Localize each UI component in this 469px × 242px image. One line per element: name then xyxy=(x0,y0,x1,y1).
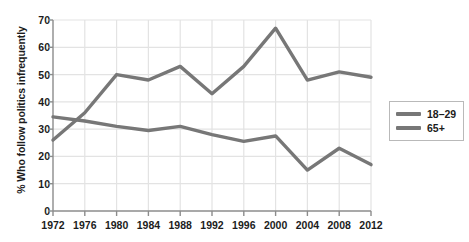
legend-label-18-29: 18–29 xyxy=(427,108,456,120)
legend-swatch-18-29 xyxy=(396,112,421,116)
legend-label-65-plus: 65+ xyxy=(427,122,445,134)
legend-item-18-29: 18–29 xyxy=(396,107,456,121)
legend-swatch-65-plus xyxy=(396,126,421,130)
x-tick-label: 2012 xyxy=(350,219,392,231)
legend-item-65-plus: 65+ xyxy=(396,121,456,135)
legend: 18–29 65+ xyxy=(389,101,464,141)
x-axis-tick-labels: 1972197619801984198819921996200020042008… xyxy=(0,219,469,237)
x-axis-ticks xyxy=(53,211,371,216)
chart-figure: % Who follow politics infrequently 01020… xyxy=(0,0,469,242)
vertical-gridlines xyxy=(85,20,371,211)
